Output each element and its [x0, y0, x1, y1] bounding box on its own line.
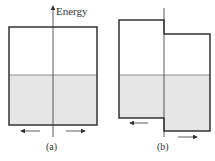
filled-band-b-right — [164, 75, 210, 131]
panel-label-a: (a) — [46, 141, 57, 153]
panel-a: Energy (a) — [9, 5, 97, 153]
panel-label-b: (b) — [157, 141, 169, 153]
energy-band-diagram: Energy (a) (b) — [0, 0, 215, 161]
panel-b: (b) — [119, 8, 210, 153]
filled-band-b-left — [119, 75, 164, 118]
energy-axis-label: Energy — [56, 5, 88, 17]
